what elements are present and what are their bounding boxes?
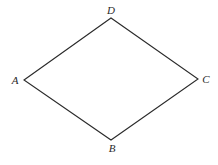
vertex-label-a: A xyxy=(11,74,19,86)
rhombus-outline xyxy=(24,18,198,140)
vertex-label-c: C xyxy=(202,73,210,85)
rhombus-figure: A B C D xyxy=(0,0,218,165)
vertex-label-b: B xyxy=(109,142,116,154)
vertex-label-d: D xyxy=(106,4,115,16)
diagram-canvas: A B C D xyxy=(0,0,218,165)
